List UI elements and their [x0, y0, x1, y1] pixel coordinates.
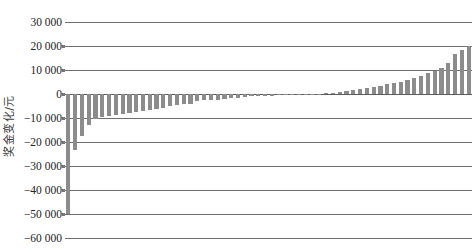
y-tick-label: −20 000 [24, 134, 62, 150]
y-tick-label: −40 000 [24, 182, 62, 198]
bar [121, 94, 125, 114]
y-tick-label: −60 000 [24, 230, 62, 246]
bar [127, 94, 131, 113]
bar [351, 90, 355, 94]
bar [331, 93, 335, 94]
bar [399, 82, 403, 94]
bar [256, 94, 260, 96]
bar [317, 94, 321, 95]
bar [310, 94, 314, 95]
bar [249, 94, 253, 96]
bar [182, 94, 186, 104]
bar [433, 71, 437, 94]
y-tick-label: 10 000 [30, 62, 62, 78]
bar [419, 76, 423, 94]
bar [304, 94, 308, 95]
bar [80, 94, 84, 136]
bar [392, 83, 396, 94]
bar [93, 94, 97, 119]
bar [188, 94, 192, 104]
bar [134, 94, 138, 112]
bar [148, 94, 152, 110]
bar [460, 50, 464, 94]
bar [229, 94, 233, 98]
bar [270, 94, 274, 96]
bar [243, 94, 247, 97]
bar [324, 93, 328, 94]
bar-chart: 奖金变化/元 30 00020 00010 0000−10 000−20 000… [0, 0, 476, 252]
bar [87, 94, 91, 125]
bar [175, 94, 179, 105]
bar [358, 89, 362, 94]
bar [161, 94, 165, 108]
bar [372, 87, 376, 94]
bars-container [65, 0, 472, 252]
bar [202, 94, 206, 100]
bar [236, 94, 240, 98]
bar [100, 94, 104, 117]
bar [378, 86, 382, 94]
bar [107, 94, 111, 116]
bar [290, 94, 294, 95]
bar [426, 73, 430, 94]
bar [338, 92, 342, 94]
bar [467, 46, 471, 94]
bar [385, 84, 389, 94]
bar [168, 94, 172, 106]
bar [412, 78, 416, 94]
y-tick-label: −30 000 [24, 158, 62, 174]
bar [277, 94, 281, 95]
y-tick-label: 0 [56, 86, 62, 102]
y-tick-label: −10 000 [24, 110, 62, 126]
bar [446, 63, 450, 94]
bar [114, 94, 118, 115]
bar [66, 94, 70, 214]
y-tick-label: −50 000 [24, 206, 62, 222]
bar [439, 68, 443, 94]
bar [216, 94, 220, 100]
bar [195, 94, 199, 101]
bar [405, 80, 409, 94]
bar [453, 54, 457, 94]
y-tick-label: 20 000 [30, 38, 62, 54]
bar [297, 94, 301, 95]
bar [365, 88, 369, 94]
bar [283, 94, 287, 95]
bar [344, 91, 348, 94]
bar [154, 94, 158, 109]
bar [263, 94, 267, 96]
bar [141, 94, 145, 111]
y-tick-label: 30 000 [30, 14, 62, 30]
bar [73, 94, 77, 150]
bar [209, 94, 213, 100]
bar [222, 94, 226, 99]
